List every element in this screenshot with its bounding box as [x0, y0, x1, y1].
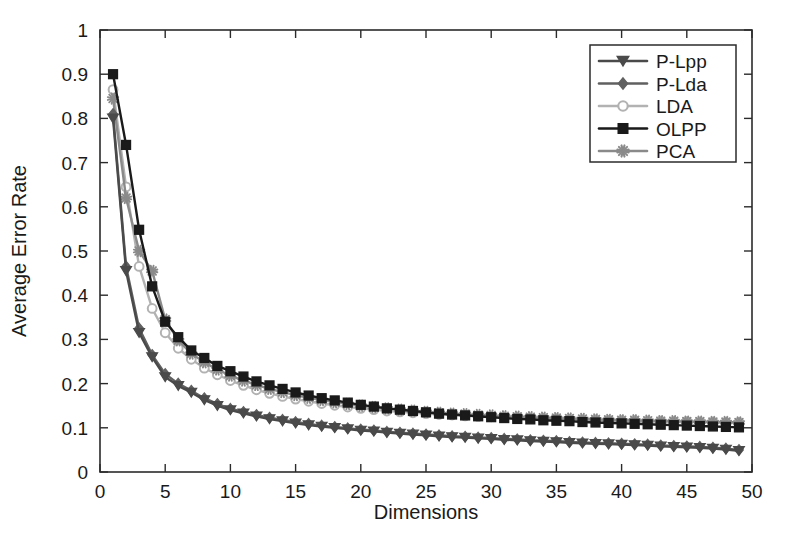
data-point-marker [669, 421, 678, 430]
series-p-lpp [108, 114, 745, 455]
y-tick-label: 0 [77, 462, 88, 483]
data-point-marker [708, 422, 717, 431]
data-point-marker [435, 409, 444, 418]
data-point-marker [343, 398, 352, 407]
y-tick-label: 1 [77, 20, 88, 41]
data-point-marker [122, 141, 131, 150]
data-point-marker [265, 381, 274, 390]
x-tick-label: 25 [415, 481, 436, 502]
x-tick-label: 30 [481, 481, 502, 502]
data-point-marker [121, 267, 132, 276]
y-tick-label: 0.9 [62, 64, 88, 85]
data-point-marker [500, 414, 509, 423]
data-point-marker [552, 416, 561, 425]
data-point-marker [618, 101, 628, 111]
data-point-marker [252, 377, 261, 386]
data-point-marker [461, 411, 470, 420]
x-tick-label: 0 [95, 481, 106, 502]
y-tick-label: 0.6 [62, 197, 88, 218]
data-point-marker [304, 391, 313, 400]
data-point-marker [121, 193, 131, 203]
data-point-marker [513, 415, 522, 424]
data-point-marker [539, 416, 548, 425]
data-point-marker [161, 328, 170, 337]
data-point-marker [187, 346, 196, 355]
legend-label: P-Lpp [656, 51, 707, 72]
x-tick-label: 50 [741, 481, 762, 502]
data-point-marker [135, 225, 144, 234]
data-point-marker [630, 419, 639, 428]
chart-legend: P-LppP-LdaLDAOLPPPCA [590, 45, 736, 162]
data-point-marker [161, 317, 170, 326]
data-point-marker [200, 354, 209, 363]
data-point-marker [643, 420, 652, 429]
x-tick-label: 5 [160, 481, 171, 502]
y-tick-label: 0.7 [62, 153, 88, 174]
x-tick-label: 20 [350, 481, 371, 502]
y-tick-label: 0.3 [62, 329, 88, 350]
data-point-marker [148, 304, 157, 313]
data-point-marker [656, 420, 665, 429]
data-point-marker [109, 70, 118, 79]
data-point-marker [695, 422, 704, 431]
data-point-marker [617, 419, 626, 428]
y-tick-label: 0.8 [62, 108, 88, 129]
data-point-marker [213, 362, 222, 371]
data-point-marker [382, 404, 391, 413]
x-tick-label: 35 [546, 481, 567, 502]
x-tick-label: 40 [611, 481, 632, 502]
data-point-marker [487, 413, 496, 422]
data-point-marker [148, 282, 157, 291]
data-point-marker [174, 344, 183, 353]
data-point-marker [278, 385, 287, 394]
data-point-marker [291, 388, 300, 397]
x-tick-label: 10 [220, 481, 241, 502]
data-point-marker [396, 405, 405, 414]
y-tick-label: 0.4 [62, 285, 89, 306]
data-point-marker [226, 367, 235, 376]
data-point-marker [682, 421, 691, 430]
data-point-marker [618, 124, 628, 134]
line-chart: 05101520253035404550 00.10.20.30.40.50.6… [0, 0, 796, 544]
legend-label: P-Lda [656, 74, 707, 95]
data-point-marker [578, 418, 587, 427]
data-point-marker [474, 412, 483, 421]
data-point-marker [369, 402, 378, 411]
y-tick-label: 0.2 [62, 374, 88, 395]
chart-figure: 05101520253035404550 00.10.20.30.40.50.6… [0, 0, 796, 544]
data-point-marker [356, 400, 365, 409]
x-axis-label: Dimensions [374, 501, 478, 523]
data-point-marker [422, 408, 431, 417]
data-point-marker [722, 423, 731, 432]
legend-label: PCA [656, 141, 695, 162]
y-axis-label: Average Error Rate [8, 165, 30, 337]
data-point-marker [330, 396, 339, 405]
data-point-marker [448, 410, 457, 419]
legend-label: LDA [656, 96, 693, 117]
data-point-marker [317, 394, 326, 403]
x-tick-label: 15 [285, 481, 306, 502]
data-point-marker [409, 407, 418, 416]
data-point-marker [565, 417, 574, 426]
y-tick-label: 0.5 [62, 241, 88, 262]
data-point-marker [735, 423, 744, 432]
y-tick-label: 0.1 [62, 418, 88, 439]
data-point-marker [604, 419, 613, 428]
legend-label: OLPP [656, 119, 707, 140]
data-point-marker [617, 145, 628, 156]
data-point-marker [135, 262, 144, 271]
data-point-marker [174, 333, 183, 342]
x-tick-label: 45 [676, 481, 697, 502]
data-point-marker [526, 415, 535, 424]
data-point-marker [239, 372, 248, 381]
data-point-marker [591, 418, 600, 427]
